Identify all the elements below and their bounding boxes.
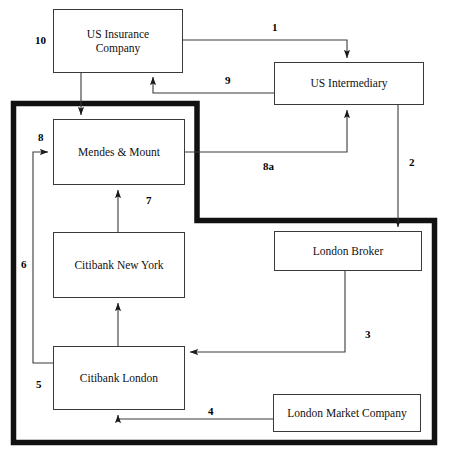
edge-label-6: 6 — [21, 258, 27, 270]
edge-label-9: 9 — [225, 74, 231, 86]
node-label: Citibank London — [80, 371, 158, 385]
node-mendes-and-mount[interactable]: Mendes & Mount — [53, 119, 185, 185]
edge-label-1: 1 — [272, 21, 278, 33]
node-label: US Intermediary — [311, 76, 388, 90]
node-london-broker[interactable]: London Broker — [274, 231, 422, 271]
edge-label-3: 3 — [365, 328, 371, 340]
node-us-intermediary[interactable]: US Intermediary — [274, 62, 424, 105]
flow-diagram: US Insurance Company US Intermediary Men… — [0, 0, 450, 459]
node-london-market-company[interactable]: London Market Company — [273, 394, 421, 432]
edge-label-8: 8 — [38, 131, 44, 143]
node-us-insurance-company[interactable]: US Insurance Company — [53, 9, 183, 73]
connector-3 — [190, 271, 345, 352]
connector-6 — [33, 152, 53, 363]
edge-label-10: 10 — [35, 34, 46, 46]
edge-label-4: 4 — [208, 405, 214, 417]
connector-4 — [118, 415, 273, 419]
node-label: Mendes & Mount — [78, 145, 160, 159]
edge-label-2: 2 — [409, 156, 415, 168]
node-label: Citibank New York — [74, 258, 163, 272]
connector-8a — [185, 110, 347, 152]
edge-label-8a: 8a — [263, 160, 274, 172]
node-label: London Market Company — [287, 406, 406, 420]
node-citibank-london[interactable]: Citibank London — [53, 346, 185, 410]
connector-1 — [183, 40, 347, 58]
edge-label-7: 7 — [146, 194, 152, 206]
node-label: London Broker — [313, 244, 384, 258]
connector-9 — [153, 77, 274, 93]
node-label: US Insurance Company — [87, 27, 149, 56]
node-citibank-new-york[interactable]: Citibank New York — [53, 232, 185, 298]
edge-label-5: 5 — [36, 378, 42, 390]
